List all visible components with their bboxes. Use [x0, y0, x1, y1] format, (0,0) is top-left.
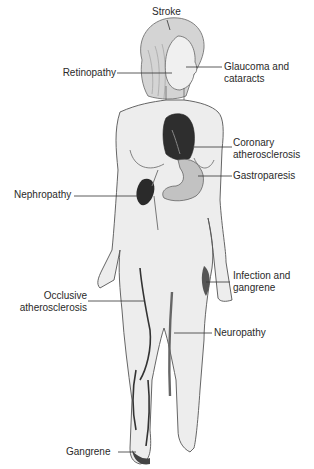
- label-neuropathy: Neuropathy: [214, 327, 266, 339]
- label-retinopathy: Retinopathy: [56, 67, 116, 79]
- label-infection: Infection and gangrene: [233, 270, 290, 293]
- label-occlusive: Occlusive atherosclerosis: [12, 290, 87, 313]
- diabetes-complications-diagram: Stroke Retinopathy Glaucoma and cataract…: [0, 0, 314, 469]
- label-coronary: Coronary atherosclerosis: [233, 137, 300, 160]
- heart-organ: [163, 114, 195, 160]
- label-glaucoma: Glaucoma and cataracts: [224, 61, 289, 84]
- label-nephropathy: Nephropathy: [14, 189, 71, 201]
- label-stroke: Stroke: [152, 6, 181, 18]
- label-gastroparesis: Gastroparesis: [233, 170, 295, 182]
- label-gangrene: Gangrene: [66, 446, 110, 458]
